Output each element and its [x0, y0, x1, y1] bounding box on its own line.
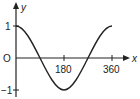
y-tick-label-neg1: −1 — [1, 85, 13, 96]
cosine-graph: y x O 1 −1 180 360 — [0, 0, 140, 99]
x-tick-label-180: 180 — [55, 64, 72, 75]
x-axis-arrow-icon — [123, 55, 130, 61]
origin-label: O — [3, 53, 11, 64]
y-axis-arrow-icon — [13, 2, 19, 9]
x-axis-label: x — [131, 53, 138, 64]
y-axis-label: y — [20, 2, 27, 13]
x-tick-label-360: 360 — [103, 64, 120, 75]
y-tick-label-1: 1 — [5, 21, 11, 32]
